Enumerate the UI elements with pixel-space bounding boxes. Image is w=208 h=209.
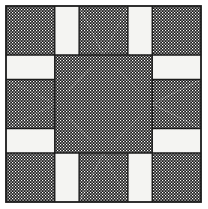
quilt-block-canvas (0, 0, 208, 209)
quilt-block-body (6, 6, 201, 202)
dark-patches-group (6, 6, 201, 202)
corner-square-bottom-right (152, 153, 201, 202)
corner-square-top-right (152, 6, 201, 55)
corner-square-bottom-left (6, 153, 55, 202)
corner-square-top-left (6, 6, 55, 55)
quilt-block-figure: Quilt block pattern Eight-pointed sawtoo… (0, 0, 208, 209)
